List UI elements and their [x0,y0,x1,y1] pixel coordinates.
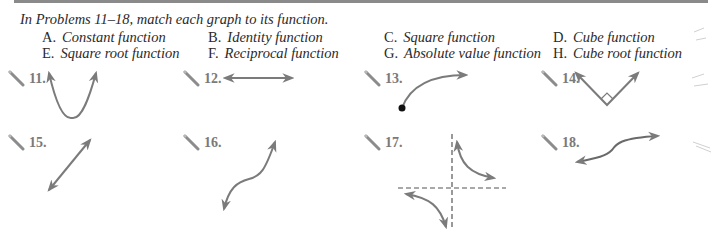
graph-square-root [396,70,476,115]
choice-letter: F. [208,45,219,61]
pencil-icon [541,134,559,152]
choice-letter: H. [553,45,567,61]
choice-letter: G. [384,45,398,61]
choice-c: C.Square function [384,30,495,45]
graph-cubic [215,136,290,214]
choice-e: E.Square root function [42,46,179,61]
choice-label: Cube root function [573,45,682,61]
pencil-icon [364,134,382,152]
pencil-icon [183,134,201,152]
choice-letter: A. [42,29,56,45]
graph-reciprocal [396,132,508,232]
choice-g: G.Absolute value function [384,46,541,61]
choice-letter: D. [553,29,567,45]
choice-letter: B. [208,29,221,45]
choice-h: H.Cube root function [553,46,682,61]
pencil-icon [8,70,26,88]
choice-letter: E. [42,45,54,61]
choice-letter: C. [384,29,397,45]
scan-smudge [690,18,712,168]
choice-label: Square root function [60,45,179,61]
choice-list: A.Constant function B.Identity function … [0,29,713,65]
problem-label: 15. [8,134,47,152]
pencil-icon [8,134,26,152]
graph-absolute-value [572,70,644,110]
choice-label: Cube function [573,29,655,45]
graph-diagonal-line [44,136,94,194]
choice-label: Absolute value function [404,45,541,61]
pencil-icon [364,70,382,88]
top-rule [14,0,708,3]
pencil-icon [183,70,201,88]
choice-label: Reciprocal function [225,45,339,61]
choice-label: Constant function [62,29,166,45]
choice-f: F.Reciprocal function [208,46,339,61]
choice-label: Square function [403,29,495,45]
problem-number: 12. [204,71,222,87]
endpoint-dot [399,105,406,112]
choice-a: A.Constant function [42,30,166,45]
choice-b: B.Identity function [208,30,323,45]
graph-parabola [40,70,110,125]
instructions: In Problems 11–18, match each graph to i… [20,11,329,28]
graph-horizontal-line [222,72,297,84]
choice-d: D.Cube function [553,30,655,45]
pencil-icon [541,70,559,88]
problem-label: 12. [183,70,222,88]
choice-label: Identity function [227,29,322,45]
graph-cube-root [572,132,664,172]
right-angle-mark [601,93,613,99]
